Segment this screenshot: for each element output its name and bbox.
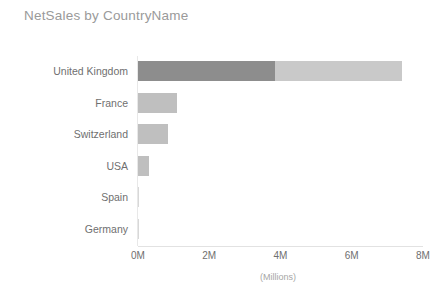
bar[interactable] (138, 187, 139, 207)
bar[interactable] (138, 124, 168, 144)
bar-row[interactable] (138, 156, 423, 176)
category-label: Switzerland (74, 124, 128, 144)
category-label: USA (106, 156, 128, 176)
bar-fill (138, 156, 149, 176)
value-axis-tick-label: 4M (274, 250, 288, 261)
value-axis-line (138, 246, 423, 247)
category-label: Germany (85, 219, 128, 239)
category-label: Spain (101, 187, 128, 207)
netsales-bar-chart: NetSales by CountryName United KingdomFr… (0, 0, 433, 308)
value-axis: 0M2M4M6M8M (0, 250, 433, 266)
category-axis: United KingdomFranceSwitzerlandUSASpainG… (0, 56, 133, 246)
bar-segment-secondary (275, 61, 401, 81)
category-label: United Kingdom (53, 61, 128, 81)
bar-fill (138, 187, 139, 207)
bar[interactable] (138, 61, 402, 81)
bar-fill (138, 124, 168, 144)
bar[interactable] (138, 93, 177, 113)
bar-fill (138, 93, 177, 113)
bar-row[interactable] (138, 187, 423, 207)
chart-title: NetSales by CountryName (24, 8, 188, 23)
value-axis-unit-label: (Millions) (260, 272, 296, 282)
bar-fill (138, 219, 139, 239)
bar[interactable] (138, 156, 149, 176)
value-axis-tick-label: 2M (202, 250, 216, 261)
bar-row[interactable] (138, 93, 423, 113)
bar-row[interactable] (138, 124, 423, 144)
bar-row[interactable] (138, 61, 423, 81)
value-axis-tick-label: 6M (345, 250, 359, 261)
value-axis-tick-label: 8M (416, 250, 430, 261)
bar[interactable] (138, 219, 139, 239)
value-axis-tick-label: 0M (131, 250, 145, 261)
bar-row[interactable] (138, 219, 423, 239)
category-label: France (95, 93, 128, 113)
bar-segment-primary (138, 61, 275, 81)
plot-area (138, 56, 423, 246)
